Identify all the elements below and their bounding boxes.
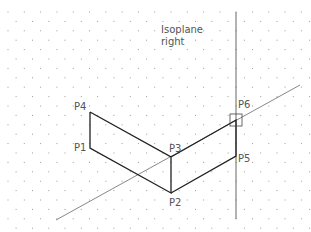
grid-dot: [219, 49, 220, 50]
grid-dot: [154, 162, 155, 163]
grid-dot: [171, 106, 172, 107]
grid-dot: [16, 153, 17, 154]
grid-dot: [8, 12, 9, 13]
grid-dot: [187, 49, 188, 50]
grid-dot: [162, 228, 163, 229]
grid-dot: [244, 40, 245, 41]
grid-dot: [89, 218, 90, 219]
grid-dot: [187, 68, 188, 69]
grid-dot: [277, 59, 278, 60]
grid-dot: [277, 115, 278, 116]
grid-dot: [179, 115, 180, 116]
grid-dot: [187, 106, 188, 107]
grid-dot: [48, 171, 49, 172]
grid-dot: [244, 77, 245, 78]
grid-dot: [293, 77, 294, 78]
grid-dot: [301, 200, 302, 201]
grid-dot: [203, 200, 204, 201]
grid-dot: [203, 106, 204, 107]
grid-dot: [179, 21, 180, 22]
grid-dot: [32, 171, 33, 172]
grid-dot: [252, 12, 253, 13]
grid-dot: [73, 49, 74, 50]
grid-dot: [219, 106, 220, 107]
grid-dot: [285, 12, 286, 13]
grid-dot: [301, 181, 302, 182]
grid-dot: [260, 228, 261, 229]
grid-dot: [73, 181, 74, 182]
grid-dot: [162, 134, 163, 135]
grid-dot: [97, 190, 98, 191]
grid-dot: [24, 12, 25, 13]
grid-dot: [146, 209, 147, 210]
grid-dot: [309, 21, 310, 22]
grid-dot: [113, 153, 114, 154]
grid-dot: [97, 209, 98, 210]
point-label-p6: P6: [238, 99, 250, 110]
grid-dot: [8, 124, 9, 125]
grid-dot: [89, 200, 90, 201]
grid-dot: [252, 30, 253, 31]
grid-dot: [187, 12, 188, 13]
grid-dot: [97, 134, 98, 135]
grid-dot: [203, 30, 204, 31]
grid-dot: [48, 77, 49, 78]
grid-dot: [162, 115, 163, 116]
grid-dot: [24, 200, 25, 201]
grid-dot: [24, 124, 25, 125]
grid-dot: [81, 115, 82, 116]
grid-dot: [293, 228, 294, 229]
grid-dot: [16, 40, 17, 41]
grid-dot: [40, 12, 41, 13]
grid-dot: [211, 209, 212, 210]
grid-dot: [285, 218, 286, 219]
grid-dot: [97, 59, 98, 60]
grid-dot: [122, 218, 123, 219]
grid-dot: [89, 30, 90, 31]
grid-dot: [179, 228, 180, 229]
grid-dot: [285, 200, 286, 201]
grid-dot: [146, 40, 147, 41]
point-label-p3: P3: [169, 143, 181, 154]
grid-dot: [16, 21, 17, 22]
grid-dot: [65, 171, 66, 172]
grid-dot: [195, 77, 196, 78]
grid-dot: [171, 124, 172, 125]
grid-dot: [211, 40, 212, 41]
grid-dot: [105, 30, 106, 31]
isoplane-label-line2: right: [161, 36, 185, 47]
grid-dot: [130, 77, 131, 78]
grid-dot: [285, 162, 286, 163]
grid-dot: [228, 77, 229, 78]
grid-dot: [73, 12, 74, 13]
grid-dot: [309, 209, 310, 210]
grid-dot: [277, 77, 278, 78]
grid-dot: [16, 115, 17, 116]
grid-dot: [105, 106, 106, 107]
grid-dot: [40, 106, 41, 107]
grid-dot: [211, 153, 212, 154]
grid-dot: [138, 49, 139, 50]
grid-dot: [301, 106, 302, 107]
isometric-drawing-canvas[interactable]: Isoplane right P4 P1 P3 P2 P6 P5: [0, 0, 311, 232]
grid-dot: [301, 49, 302, 50]
grid-dot: [73, 30, 74, 31]
grid-dot: [32, 190, 33, 191]
grid-dot: [8, 87, 9, 88]
grid-dot: [24, 143, 25, 144]
right-face-outline: [171, 120, 236, 193]
grid-dot: [260, 153, 261, 154]
grid-dot: [277, 153, 278, 154]
grid-dot: [146, 59, 147, 60]
grid-dot: [56, 181, 57, 182]
grid-dot: [97, 21, 98, 22]
grid-dot: [162, 209, 163, 210]
grid-dot: [130, 171, 131, 172]
grid-dot: [219, 218, 220, 219]
grid-dot: [309, 96, 310, 97]
grid-dot: [97, 228, 98, 229]
grid-dot: [252, 162, 253, 163]
grid-dot: [32, 40, 33, 41]
grid-dot: [293, 21, 294, 22]
grid-dot: [244, 134, 245, 135]
